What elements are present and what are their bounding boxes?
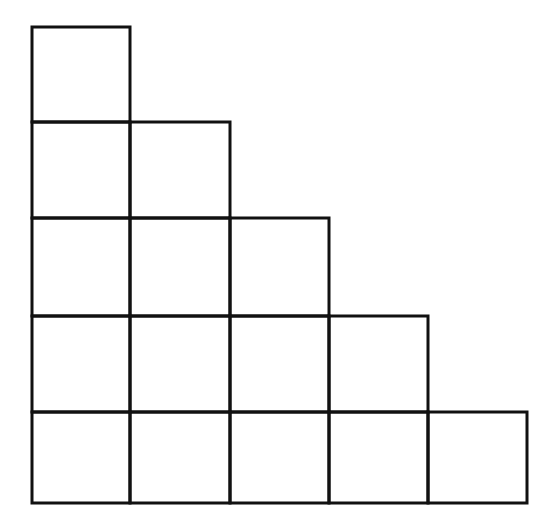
grid-cell [230,412,329,503]
staircase-diagram [0,0,560,527]
grid-cell [130,316,230,412]
grid-cell [32,27,130,122]
grid-cell [329,316,428,412]
grid-cell [130,412,230,503]
grid-cell [329,412,428,503]
grid-cell [428,412,527,503]
grid-cell [32,122,130,218]
grid-cell [32,412,130,503]
grid-cell [130,122,230,218]
grid-cell [230,316,329,412]
grid-cell [32,316,130,412]
grid-cell [32,218,130,316]
grid-cell [130,218,230,316]
grid-cell [230,218,329,316]
